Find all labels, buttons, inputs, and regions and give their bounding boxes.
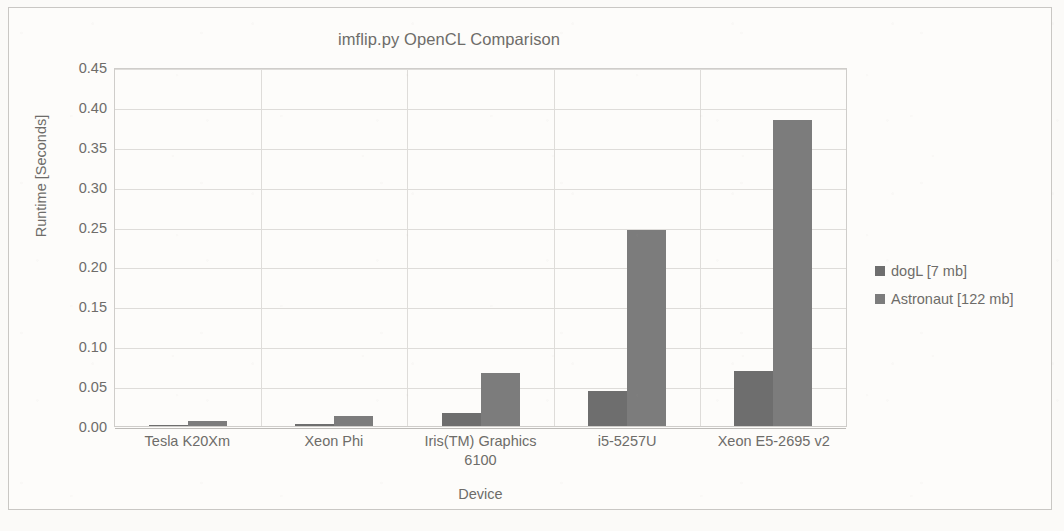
x-axis-category-label: i5-5257U (554, 432, 701, 486)
bar-groups (115, 69, 846, 426)
legend-label: Astronaut [122 mb] (891, 291, 1014, 307)
legend-swatch-icon (875, 294, 885, 304)
y-axis-tick-label: 0.20 (43, 259, 107, 275)
legend-item[interactable]: dogL [7 mb] (875, 263, 1055, 279)
chart-title: imflip.py OpenCL Comparison (9, 30, 889, 49)
y-axis-tick-label: 0.40 (43, 100, 107, 116)
y-axis-tick-label: 0.35 (43, 140, 107, 156)
x-axis-category-label: Xeon E5-2695 v2 (700, 432, 847, 486)
y-axis-tick-label: 0.25 (43, 220, 107, 236)
y-axis-tick-label: 0.10 (43, 339, 107, 355)
x-axis-category-label: Iris(TM) Graphics 6100 (407, 432, 554, 486)
legend-label: dogL [7 mb] (891, 263, 967, 279)
legend-item[interactable]: Astronaut [122 mb] (875, 291, 1055, 307)
x-axis-title: Device (114, 486, 847, 502)
x-axis-category-labels: Tesla K20XmXeon PhiIris(TM) Graphics 610… (114, 432, 847, 486)
gridline (115, 428, 846, 429)
y-axis-tick-label: 0.15 (43, 299, 107, 315)
chart-container: imflip.py OpenCL Comparison Runtime [Sec… (8, 7, 1052, 510)
bar-group (700, 69, 846, 426)
y-axis-tick-label: 0.45 (43, 60, 107, 76)
bar[interactable] (481, 373, 520, 426)
y-axis-tick-label: 0.00 (43, 419, 107, 435)
legend-swatch-icon (875, 266, 885, 276)
bar-group (115, 69, 261, 426)
bar[interactable] (295, 424, 334, 426)
bar-group (407, 69, 553, 426)
bar[interactable] (627, 230, 666, 426)
bar[interactable] (734, 371, 773, 426)
y-axis-tick-label: 0.30 (43, 180, 107, 196)
bar[interactable] (588, 391, 627, 426)
y-axis-tick-label: 0.05 (43, 379, 107, 395)
bar-group (554, 69, 700, 426)
bar[interactable] (773, 120, 812, 426)
chart-legend: dogL [7 mb]Astronaut [122 mb] (875, 263, 1055, 319)
plot-area (114, 68, 847, 427)
bar[interactable] (188, 421, 227, 426)
bar[interactable] (334, 416, 373, 426)
y-axis-ticks: 0.000.050.100.150.200.250.300.350.400.45 (37, 68, 107, 427)
bar[interactable] (442, 413, 481, 426)
bar-group (261, 69, 407, 426)
bar[interactable] (149, 425, 188, 426)
x-axis-category-label: Xeon Phi (261, 432, 408, 486)
x-axis-category-label: Tesla K20Xm (114, 432, 261, 486)
